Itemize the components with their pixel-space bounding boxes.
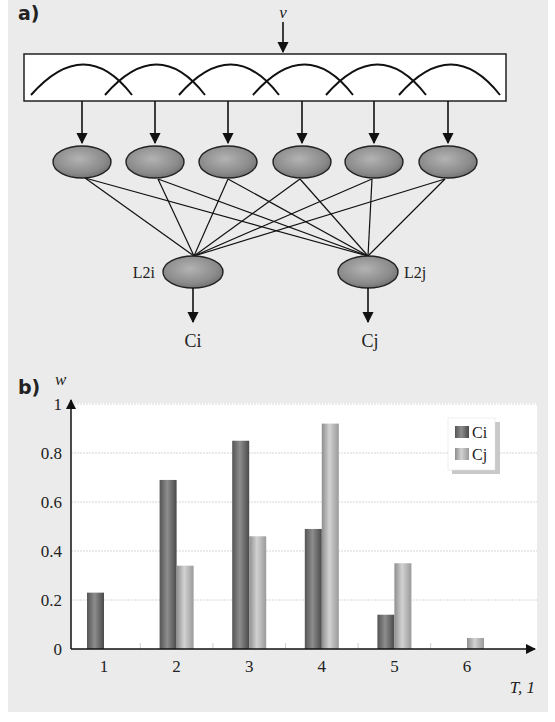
y-tick-labels: 00.20.40.60.81 <box>41 395 63 659</box>
bar-cj <box>394 563 411 649</box>
bar-chart: w 00.20.40.60.81 123456 T, 1 Ci Cj <box>0 356 555 712</box>
legend-label-cj: Cj <box>472 446 487 464</box>
bar-ci <box>87 593 104 649</box>
y-tick-label: 0 <box>54 640 63 659</box>
layer1-node <box>273 146 331 178</box>
bar-cj <box>467 638 484 649</box>
y-tick-label: 0.8 <box>41 444 62 463</box>
layer1-nodes <box>53 146 477 178</box>
layer-connections <box>85 178 445 256</box>
bar-ci <box>160 480 177 649</box>
x-tick-label: 2 <box>172 657 181 676</box>
legend: Ci Cj <box>448 418 500 474</box>
output-label-ci: Ci <box>184 331 201 351</box>
x-axis-label: T, 1 <box>510 678 535 697</box>
x-tick-label: 1 <box>100 657 109 676</box>
x-tick-label: 3 <box>245 657 254 676</box>
legend-swatch-cj <box>455 448 469 460</box>
y-tick-label: 1 <box>54 395 63 414</box>
y-tick-label: 0.6 <box>41 493 62 512</box>
x-tick-label: 4 <box>318 657 327 676</box>
cropped-caption <box>0 712 555 722</box>
layer1-node <box>126 146 184 178</box>
layer2-node-j <box>338 256 398 288</box>
legend-swatch-ci <box>455 426 469 438</box>
bar-ci <box>305 529 322 649</box>
x-tick-label: 5 <box>390 657 399 676</box>
y-tick-label: 0.4 <box>41 542 63 561</box>
bar-cj <box>249 536 266 649</box>
layer1-node <box>419 146 477 178</box>
bar-ci <box>232 441 249 649</box>
y-axis-label: w <box>55 370 67 389</box>
layer2-node-i <box>163 256 223 288</box>
bar-cj <box>177 566 194 649</box>
layer2-label-j: L2j <box>404 264 426 282</box>
layer2-label-i: L2i <box>133 264 156 281</box>
legend-label-ci: Ci <box>472 424 488 441</box>
layer1-node <box>53 146 111 178</box>
input-receptive-field-box <box>24 54 506 101</box>
network-diagram: v L2i L2j C <box>0 0 555 356</box>
output-label-cj: Cj <box>361 331 378 351</box>
bar-cj <box>322 424 339 649</box>
layer1-input-arrows <box>82 101 448 143</box>
bar-ci <box>377 615 394 649</box>
x-tick-label: 6 <box>463 657 472 676</box>
y-tick-label: 0.2 <box>41 591 62 610</box>
layer1-node <box>345 146 403 178</box>
layer1-node <box>199 146 257 178</box>
input-v-label: v <box>279 3 287 22</box>
x-tick-labels: 123456 <box>100 657 472 676</box>
